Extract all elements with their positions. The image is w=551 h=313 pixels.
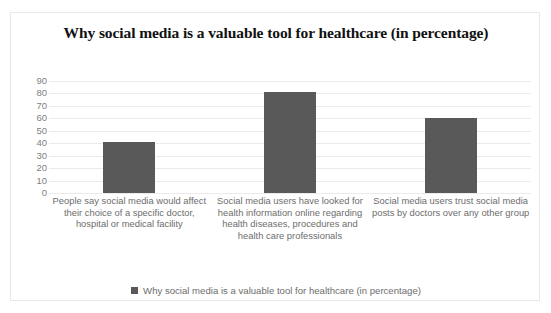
y-tick-label: 20 xyxy=(36,163,47,173)
chart-title: Why social media is a valuable tool for … xyxy=(51,23,501,42)
category-label: Social media users have looked for healt… xyxy=(210,195,371,241)
y-axis-tick-labels: 9080706050403020100 xyxy=(19,81,47,193)
y-tick-label: 0 xyxy=(42,188,47,198)
bar-slot xyxy=(49,81,210,193)
legend-label: Why social media is a valuable tool for … xyxy=(143,285,421,296)
y-tick-label: 10 xyxy=(36,176,47,186)
bar-series xyxy=(49,81,531,193)
y-tick-label: 60 xyxy=(36,113,47,123)
bar-slot xyxy=(370,81,531,193)
category-label: Social media users trust social media po… xyxy=(370,195,531,218)
y-tick-label: 40 xyxy=(36,138,47,148)
bar[interactable] xyxy=(264,92,316,193)
y-tick-label: 90 xyxy=(36,76,47,86)
y-tick-label: 30 xyxy=(36,151,47,161)
bar-slot xyxy=(210,81,371,193)
chart-legend: Why social media is a valuable tool for … xyxy=(11,285,541,296)
category-label: People say social media would affect the… xyxy=(49,195,210,230)
y-tick-label: 70 xyxy=(36,101,47,111)
bar[interactable] xyxy=(103,142,155,193)
y-tick-label: 50 xyxy=(36,126,47,136)
chart-container: Why social media is a valuable tool for … xyxy=(10,12,540,301)
gridline-0 xyxy=(49,193,531,194)
legend-swatch-icon xyxy=(131,287,138,294)
x-axis-category-labels: People say social media would affect the… xyxy=(49,195,531,273)
bar[interactable] xyxy=(425,118,477,193)
y-tick-label: 80 xyxy=(36,88,47,98)
